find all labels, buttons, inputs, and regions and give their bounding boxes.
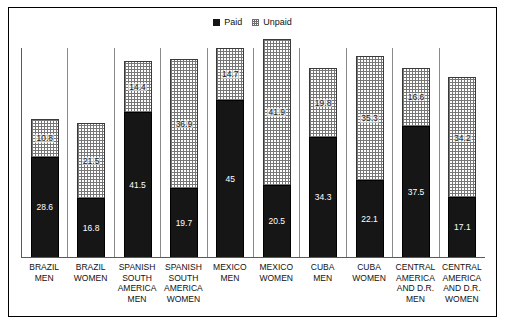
category-label-line: SOUTH bbox=[115, 273, 159, 284]
category-label: SPANISHSOUTHAMERICAMEN bbox=[114, 262, 160, 316]
bar-segment-paid[interactable]: 28.6 bbox=[31, 157, 59, 257]
bar-value-unpaid: 41.9 bbox=[267, 108, 286, 117]
stacked-bar[interactable]: 41.920.5 bbox=[263, 39, 291, 257]
category-label: BRAZILMEN bbox=[21, 262, 67, 316]
bar-segment-paid[interactable]: 41.5 bbox=[124, 112, 152, 257]
bar-segment-unpaid[interactable]: 14.7 bbox=[216, 48, 244, 99]
bar-segment-unpaid[interactable]: 19.8 bbox=[309, 68, 337, 137]
bar-value-unpaid: 10.8 bbox=[35, 134, 54, 143]
category-label: MEXICOWOMEN bbox=[253, 262, 299, 316]
bar-segment-paid[interactable]: 22.1 bbox=[356, 180, 384, 257]
stacked-bar[interactable]: 36.919.7 bbox=[170, 59, 198, 257]
bar-value-paid: 17.1 bbox=[454, 223, 471, 232]
bar-value-paid: 45 bbox=[226, 175, 235, 184]
stacked-bar[interactable]: 34.217.1 bbox=[448, 77, 476, 257]
bar-segment-unpaid[interactable]: 21.5 bbox=[77, 123, 105, 198]
category-label-line: AMERICA bbox=[161, 283, 205, 294]
bar-value-paid: 41.5 bbox=[129, 181, 146, 190]
bar-slot[interactable]: 14.441.5 bbox=[115, 48, 161, 257]
bar-value-paid: 16.8 bbox=[83, 224, 100, 233]
category-label-line: CENTRAL bbox=[440, 262, 484, 273]
stacked-bar[interactable]: 10.828.6 bbox=[31, 119, 59, 257]
legend-label-unpaid: Unpaid bbox=[263, 18, 292, 27]
bar-segment-paid[interactable]: 17.1 bbox=[448, 197, 476, 257]
bar-slot[interactable]: 36.919.7 bbox=[161, 48, 207, 257]
stacked-bar[interactable]: 14.745 bbox=[216, 48, 244, 257]
bar-value-unpaid: 14.7 bbox=[221, 70, 240, 79]
stacked-bar[interactable]: 35.322.1 bbox=[356, 56, 384, 257]
bar-value-paid: 19.7 bbox=[176, 219, 193, 228]
bar-slot[interactable]: 10.828.6 bbox=[22, 48, 68, 257]
category-label-line: CUBA bbox=[347, 262, 391, 273]
bar-value-unpaid: 34.2 bbox=[453, 134, 472, 143]
bar-slot[interactable]: 16.637.5 bbox=[393, 48, 439, 257]
bar-value-paid: 37.5 bbox=[408, 188, 425, 197]
chart-legend: Paid Unpaid bbox=[9, 15, 496, 29]
category-label-line: SPANISH bbox=[161, 262, 205, 273]
category-label-line: MEN bbox=[22, 273, 66, 284]
bar-slot[interactable]: 21.516.8 bbox=[68, 48, 114, 257]
bar-segment-paid[interactable]: 45 bbox=[216, 100, 244, 258]
category-label-line: CUBA bbox=[300, 262, 344, 273]
category-label-line: MEXICO bbox=[208, 262, 252, 273]
bar-segment-paid[interactable]: 16.8 bbox=[77, 198, 105, 257]
bar-value-unpaid: 19.8 bbox=[314, 99, 333, 108]
bar-value-paid: 28.6 bbox=[36, 203, 53, 212]
bar-segment-paid[interactable]: 37.5 bbox=[402, 126, 430, 257]
stacked-bar[interactable]: 16.637.5 bbox=[402, 68, 430, 257]
category-label: CENTRALAMERICAAND D.R.WOMEN bbox=[439, 262, 485, 316]
legend-item-unpaid: Unpaid bbox=[252, 18, 292, 27]
bar-value-unpaid: 16.6 bbox=[407, 93, 426, 102]
bar-slot[interactable]: 35.322.1 bbox=[347, 48, 393, 257]
bar-slot[interactable]: 14.745 bbox=[208, 48, 254, 257]
bar-segment-unpaid[interactable]: 34.2 bbox=[448, 77, 476, 197]
category-label-line: AMERICA bbox=[393, 273, 437, 284]
bar-segment-paid[interactable]: 20.5 bbox=[263, 185, 291, 257]
bar-slot[interactable]: 41.920.5 bbox=[254, 48, 300, 257]
bar-segment-unpaid[interactable]: 41.9 bbox=[263, 39, 291, 186]
bar-slot[interactable]: 19.834.3 bbox=[300, 48, 346, 257]
category-label-line: MEN bbox=[300, 273, 344, 284]
legend-swatch-unpaid-icon bbox=[252, 19, 259, 26]
category-label-line: AMERICA bbox=[115, 283, 159, 294]
legend-swatch-paid-icon bbox=[213, 19, 220, 26]
category-label-line: AMERICA bbox=[440, 273, 484, 284]
category-label-line: MEN bbox=[208, 273, 252, 284]
category-label-line: BRAZIL bbox=[22, 262, 66, 273]
bar-slot[interactable]: 34.217.1 bbox=[440, 48, 485, 257]
category-label: SPANISHSOUTHAMERICAWOMEN bbox=[160, 262, 206, 316]
category-label-line: WOMEN bbox=[254, 273, 298, 284]
category-label-line: WOMEN bbox=[68, 273, 112, 284]
category-label-line: AND D.R. bbox=[440, 283, 484, 294]
plot-area: 10.828.621.516.814.441.536.919.714.74541… bbox=[21, 48, 485, 258]
bar-group: 10.828.621.516.814.441.536.919.714.74541… bbox=[22, 48, 485, 257]
bar-value-unpaid: 14.4 bbox=[128, 83, 147, 92]
stacked-bar[interactable]: 14.441.5 bbox=[124, 61, 152, 257]
bar-value-unpaid: 36.9 bbox=[175, 120, 194, 129]
bar-segment-unpaid[interactable]: 36.9 bbox=[170, 59, 198, 188]
legend-label-paid: Paid bbox=[224, 18, 242, 27]
category-label-line: SPANISH bbox=[115, 262, 159, 273]
category-label-line: AND D.R. bbox=[393, 283, 437, 294]
category-label-line: MEN bbox=[115, 294, 159, 305]
bar-value-paid: 22.1 bbox=[361, 215, 378, 224]
category-label-line: CENTRAL bbox=[393, 262, 437, 273]
category-label-line: WOMEN bbox=[347, 273, 391, 284]
stacked-bar[interactable]: 21.516.8 bbox=[77, 123, 105, 257]
category-label-line: WOMEN bbox=[440, 294, 484, 305]
bar-segment-unpaid[interactable]: 10.8 bbox=[31, 119, 59, 157]
bar-segment-unpaid[interactable]: 35.3 bbox=[356, 56, 384, 180]
category-label-line: MEXICO bbox=[254, 262, 298, 273]
bar-segment-paid[interactable]: 34.3 bbox=[309, 137, 337, 257]
bar-segment-paid[interactable]: 19.7 bbox=[170, 188, 198, 257]
category-label: MEXICOMEN bbox=[207, 262, 253, 316]
stacked-bar[interactable]: 19.834.3 bbox=[309, 68, 337, 257]
category-label-line: BRAZIL bbox=[68, 262, 112, 273]
bar-value-unpaid: 35.3 bbox=[360, 114, 379, 123]
bar-segment-unpaid[interactable]: 14.4 bbox=[124, 61, 152, 111]
category-label: BRAZILWOMEN bbox=[67, 262, 113, 316]
chart-frame: Paid Unpaid 10.828.621.516.814.441.536.9… bbox=[8, 7, 497, 317]
bar-segment-unpaid[interactable]: 16.6 bbox=[402, 68, 430, 126]
category-axis-labels: BRAZILMENBRAZILWOMENSPANISHSOUTHAMERICAM… bbox=[21, 262, 485, 316]
category-label: CENTRALAMERICAAND D.R.MEN bbox=[392, 262, 438, 316]
